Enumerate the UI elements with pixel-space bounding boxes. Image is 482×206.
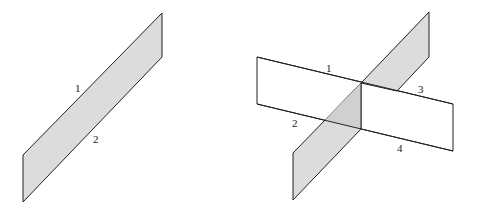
right-label-3: 3 [418, 83, 424, 95]
left-label-1: 1 [75, 82, 81, 94]
left-label-2: 2 [93, 133, 99, 145]
left-figure: 1 2 [23, 13, 162, 202]
right-label-4: 4 [397, 142, 403, 154]
right-figure: 1 2 3 4 [257, 12, 453, 200]
right-label-1: 1 [326, 62, 332, 74]
vertical-plane-upper [361, 12, 429, 91]
right-label-2: 2 [292, 117, 298, 129]
left-shaded-plane [23, 13, 162, 202]
diagram-canvas: 1 2 1 2 3 4 [0, 0, 482, 206]
